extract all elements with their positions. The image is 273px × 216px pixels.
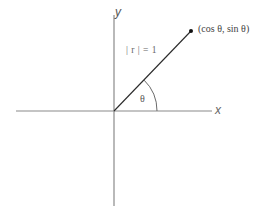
angle-theta-label: θ [140, 94, 145, 104]
radius-magnitude-label: | r | = 1 [126, 46, 157, 56]
endpoint-dot [189, 29, 193, 33]
radius-vector [114, 31, 191, 111]
point-coordinate-label: (cos θ, sin θ) [198, 24, 249, 34]
x-axis-label: x [215, 104, 221, 116]
angle-arc [144, 80, 157, 111]
y-axis-label: y [115, 6, 121, 18]
